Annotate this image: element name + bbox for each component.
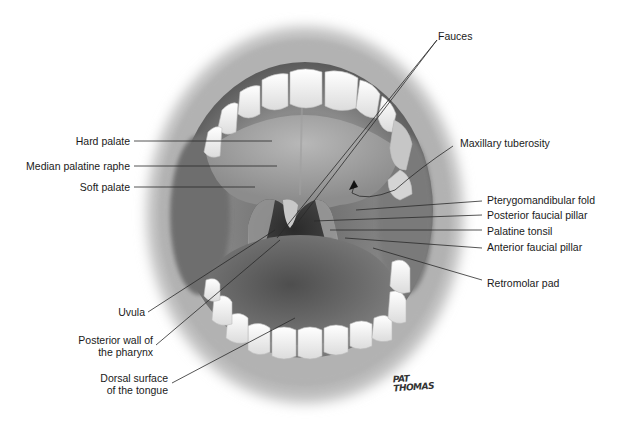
label-line-1: Posterior wall of xyxy=(40,334,153,346)
label-palatine-tonsil: Palatine tonsil xyxy=(487,225,552,237)
label-hard-palate: Hard palate xyxy=(40,135,130,147)
label-posterior-wall-pharynx: Posterior wall of the pharynx xyxy=(40,334,153,358)
label-uvula: Uvula xyxy=(60,306,145,318)
label-pterygomandibular-fold: Pterygomandibular fold xyxy=(487,194,595,206)
artist-signature: PAT THOMAS xyxy=(392,373,434,394)
label-dorsal-surface-tongue: Dorsal surface of the tongue xyxy=(60,372,168,396)
anatomy-figure: Hard palate Median palatine raphe Soft p… xyxy=(0,0,619,422)
label-anterior-faucial-pillar: Anterior faucial pillar xyxy=(487,241,582,253)
label-line-2: of the tongue xyxy=(60,384,168,396)
label-retromolar-pad: Retromolar pad xyxy=(487,277,559,289)
label-soft-palate: Soft palate xyxy=(40,181,130,193)
label-posterior-faucial-pillar: Posterior faucial pillar xyxy=(487,209,587,221)
label-median-palatine-raphe: Median palatine raphe xyxy=(0,160,130,172)
label-line-2: the pharynx xyxy=(40,346,153,358)
label-maxillary-tuberosity: Maxillary tuberosity xyxy=(460,137,550,149)
label-fauces: Fauces xyxy=(438,30,472,42)
label-line-1: Dorsal surface xyxy=(60,372,168,384)
